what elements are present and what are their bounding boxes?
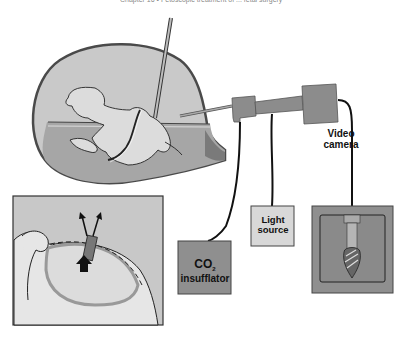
co2-label-text: CO (194, 257, 212, 271)
light-source-label: Light source (252, 215, 294, 236)
fetoscopy-diagram (0, 0, 405, 340)
video-monitor (312, 206, 393, 293)
video-camera-label: Video camera (316, 128, 366, 150)
co2-label-line2: insufflator (179, 273, 231, 284)
co2-subscript: 2 (212, 266, 215, 272)
inset-view (13, 196, 163, 325)
light-source-label-line2: source (252, 225, 294, 235)
video-camera-label-line2: camera (316, 139, 366, 150)
co2-insufflator-label: CO2 insufflator (179, 258, 231, 284)
video-camera-label-line1: Video (316, 128, 366, 139)
video-camera (302, 84, 338, 124)
